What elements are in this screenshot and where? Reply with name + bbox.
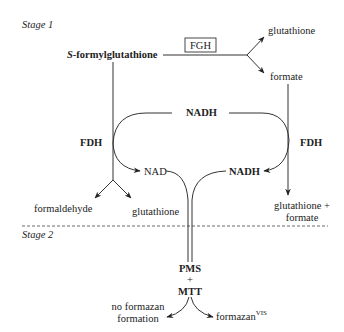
mtt-label: MTT bbox=[178, 286, 202, 297]
glutathione-formate-line1: glutathione + bbox=[274, 200, 330, 211]
arrow-to-formazan bbox=[191, 297, 213, 317]
substrate-label: S-formylglutathione bbox=[67, 49, 158, 60]
formazan-assay-diagram: Stage 1 Stage 2 S-formylglutathione FGH … bbox=[0, 0, 344, 332]
no-formazan-line2: formation bbox=[117, 313, 159, 324]
formazan-vis-label: formazanVIS bbox=[216, 309, 267, 322]
arrow-to-formaldehyde bbox=[95, 180, 113, 198]
nadh-regeneration-curve bbox=[229, 113, 289, 171]
pms-label: PMS bbox=[179, 263, 201, 274]
formaldehyde-label: formaldehyde bbox=[34, 203, 93, 214]
nad-label: NAD bbox=[144, 166, 167, 177]
glutathione-left-label: glutathione bbox=[132, 206, 180, 217]
stage-2-label: Stage 2 bbox=[22, 229, 54, 240]
arrow-to-glutathione-top bbox=[247, 37, 264, 55]
fdh-right-label: FDH bbox=[300, 137, 322, 148]
no-formazan-line1: no formazan bbox=[112, 301, 166, 312]
glutathione-top-label: glutathione bbox=[268, 25, 316, 36]
arrow-to-formate bbox=[247, 55, 264, 73]
glutathione-formate-line2: formate bbox=[286, 212, 319, 223]
nadh-to-pms-curve bbox=[192, 171, 226, 262]
fdh-left-label: FDH bbox=[80, 137, 102, 148]
nadh-right-label: NADH bbox=[229, 166, 260, 177]
nadh-top-label: NADH bbox=[186, 107, 217, 118]
plus-sign: + bbox=[187, 274, 193, 285]
arrow-to-no-formazan bbox=[167, 297, 189, 317]
formate-label: formate bbox=[270, 71, 303, 82]
arrow-to-glutathione-left bbox=[113, 180, 131, 198]
nadh-to-nad-curve bbox=[113, 113, 172, 171]
fgh-enzyme-label: FGH bbox=[190, 40, 211, 51]
stage-1-label: Stage 1 bbox=[22, 19, 53, 30]
